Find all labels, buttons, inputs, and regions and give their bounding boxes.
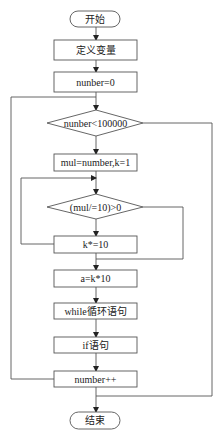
if-statement-label: if语句 [82, 339, 108, 351]
node-define-vars: 定义变量 [54, 40, 137, 60]
init-mul-label: mul=number,k=1 [61, 157, 130, 168]
flowchart: 开始 定义变量 nunber=0 nunber<100000 mul=numbe… [0, 0, 221, 438]
while-loop-label: while循环语句 [64, 305, 126, 317]
increment-label: number++ [75, 374, 117, 385]
node-inner-condition: (mul/=10)>0 [47, 194, 143, 219]
define-vars-label: 定义变量 [76, 44, 116, 56]
node-increment: number++ [54, 371, 137, 387]
start-label: 开始 [85, 13, 105, 25]
inner-condition-label: (mul/=10)>0 [70, 202, 121, 214]
node-end: 结束 [70, 412, 120, 429]
compute-a-label: a=k*10 [80, 273, 110, 284]
node-outer-condition: nunber<100000 [47, 110, 143, 136]
node-start: 开始 [70, 11, 120, 27]
node-compute-a: a=k*10 [54, 270, 137, 287]
k-multiply-label: k*=10 [83, 239, 109, 250]
node-k-multiply: k*=10 [54, 236, 137, 253]
node-init-mul: mul=number,k=1 [54, 154, 137, 171]
outer-condition-label: nunber<100000 [64, 118, 127, 129]
init-number-label: nunber=0 [76, 77, 114, 88]
node-init-number: nunber=0 [54, 72, 137, 92]
end-label: 结束 [85, 414, 105, 426]
node-while-loop: while循环语句 [54, 303, 137, 319]
node-if-statement: if语句 [54, 337, 137, 353]
